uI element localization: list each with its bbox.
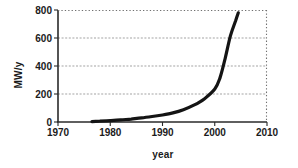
x-tick-label: 2000	[204, 127, 227, 138]
y-tick-label: 200	[35, 89, 52, 100]
tick-labels: 020040060080019701980199020002010	[35, 5, 278, 139]
x-axis-title: year	[152, 149, 173, 160]
gridlines	[58, 38, 267, 94]
x-tick-label: 1970	[47, 127, 70, 138]
chart-svg: 020040060080019701980199020002010 MW/y y…	[0, 0, 298, 168]
y-tick-label: 800	[35, 5, 52, 16]
y-tick-label: 0	[46, 117, 52, 128]
y-tick-label: 600	[35, 33, 52, 44]
y-tick-label: 400	[35, 61, 52, 72]
line-chart: 020040060080019701980199020002010 MW/y y…	[0, 0, 298, 168]
x-tick-label: 1990	[151, 127, 174, 138]
y-axis-title: MW/y	[13, 61, 24, 88]
x-tick-label: 2010	[256, 127, 279, 138]
x-tick-label: 1980	[99, 127, 122, 138]
axis-ticks	[54, 10, 267, 126]
data-curve	[92, 13, 238, 122]
